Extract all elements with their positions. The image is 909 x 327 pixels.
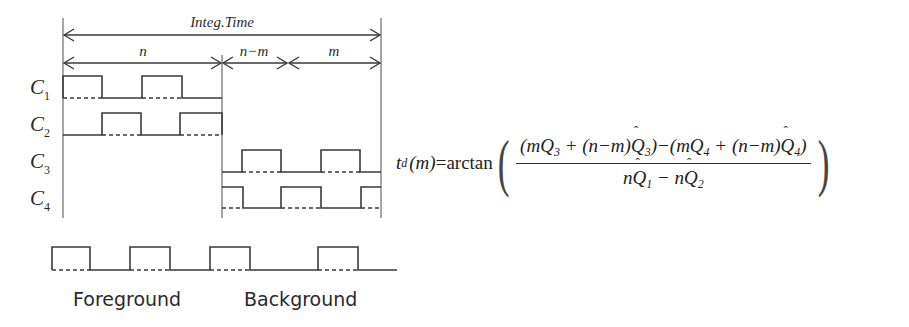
c1-waveform	[63, 76, 222, 98]
channel-label-c4: C4	[30, 186, 50, 214]
background-caption: Background	[244, 288, 357, 310]
formula-lhs-sub: d	[401, 156, 407, 171]
delay-formula: td (m) = arctan ( (mQ3 + (n−m)Q3)−(mQ4 +…	[396, 118, 834, 208]
channel-label-c3: C3	[30, 149, 50, 177]
formula-lhs-arg: (m)	[409, 152, 435, 174]
m-span-label: m	[329, 43, 340, 59]
foreground-caption: Foreground	[73, 288, 181, 310]
formula-equals: =	[436, 152, 447, 174]
integ-time-arrow	[64, 29, 380, 41]
formula-fraction: (mQ3 + (n−m)Q3)−(mQ4 + (n−m)Q4) nQ1 − nQ…	[516, 135, 811, 192]
channel-label-c2: C2	[30, 112, 50, 140]
c4-waveform	[222, 187, 381, 208]
formula-func: arctan	[446, 152, 492, 174]
n-span-label: n	[139, 43, 147, 59]
n-minus-m-span-label: n−m	[240, 43, 269, 59]
formula-denominator: nQ1 − nQ2	[619, 164, 708, 192]
c2-waveform	[63, 113, 222, 135]
reference-waveform	[52, 247, 397, 270]
c3-waveform	[222, 150, 381, 172]
channel-label-c1: C1	[30, 75, 50, 103]
formula-right-paren: )	[817, 131, 829, 195]
formula-numerator: (mQ3 + (n−m)Q3)−(mQ4 + (n−m)Q4)	[516, 135, 811, 164]
formula-left-paren: (	[498, 131, 510, 195]
tof-timing-figure: Integ.Time n n−m m C1 C2 C3 C4	[0, 0, 909, 327]
integ-time-label: Integ.Time	[189, 14, 254, 30]
